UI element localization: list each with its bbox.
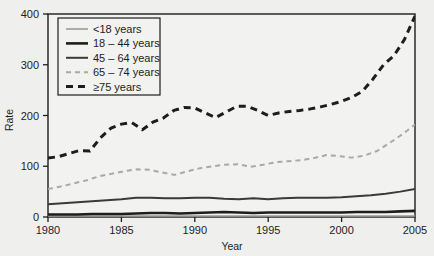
x-tick-label: 2000 bbox=[329, 224, 353, 236]
y-tick-label: 400 bbox=[21, 8, 39, 20]
legend-label-4: ≥75 years bbox=[93, 81, 142, 93]
legend-label-3: 65 – 74 years bbox=[93, 66, 160, 78]
y-axis-label: Rate bbox=[3, 109, 15, 131]
legend-label-0: <18 years bbox=[93, 23, 142, 35]
x-tick-label: 1995 bbox=[256, 224, 280, 236]
y-tick-label: 100 bbox=[21, 160, 39, 172]
x-tick-label: 1990 bbox=[183, 224, 207, 236]
y-tick-label: 300 bbox=[21, 59, 39, 71]
chart-figure: 0100200300400 198019851990199520002005 R… bbox=[0, 0, 434, 256]
chart-canvas: 0100200300400 198019851990199520002005 R… bbox=[0, 0, 434, 256]
x-tick-label: 2005 bbox=[403, 224, 427, 236]
x-tick-label: 1980 bbox=[36, 224, 60, 236]
x-axis-label: Year bbox=[221, 240, 243, 252]
x-tick-label: 1985 bbox=[109, 224, 133, 236]
y-tick-label: 0 bbox=[33, 211, 39, 223]
legend-label-1: 18 – 44 years bbox=[93, 37, 160, 49]
y-tick-label: 200 bbox=[21, 110, 39, 122]
chart-legend: <18 years18 – 44 years45 – 64 years65 – … bbox=[58, 18, 160, 95]
legend-label-2: 45 – 64 years bbox=[93, 52, 160, 64]
